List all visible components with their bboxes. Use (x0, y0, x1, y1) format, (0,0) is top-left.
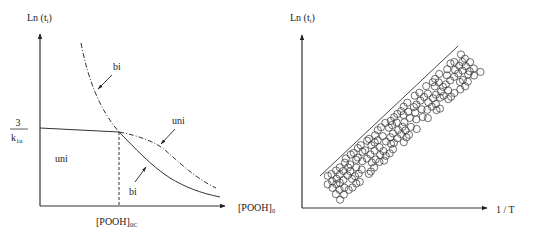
right-x-axis-label: 1 / T (496, 204, 515, 215)
uni-right-label: uni (172, 115, 185, 126)
uni-plateau-line (40, 128, 119, 132)
uni-right-arrow (161, 129, 175, 144)
bi-bottom-arrow (135, 167, 146, 182)
bi-top-arrow (98, 75, 112, 89)
x-tick-critical-label: [POOH]0C (96, 216, 137, 228)
left-x-axis-label: [POOH]0 (238, 202, 275, 214)
left-chart: Ln (ti) 3 k1u bi uni bi uni [POOH]0C [PO… (10, 12, 275, 228)
bi-bottom-label: bi (129, 186, 137, 197)
figure: Ln (ti) 3 k1u bi uni bi uni [POOH]0C [PO… (0, 0, 536, 240)
right-chart: Ln (ti) 1 / T (290, 12, 515, 215)
uni-dashdot-curve (119, 132, 216, 188)
right-y-axis-label: Ln (ti) (290, 12, 315, 24)
scatter-points (324, 51, 484, 203)
y-tick-numerator: 3 (16, 117, 21, 128)
left-y-axis-label: Ln (ti) (27, 12, 52, 24)
y-tick-denominator: k1u (11, 132, 23, 144)
uni-region-label: uni (55, 153, 68, 164)
bi-top-label: bi (113, 61, 121, 72)
